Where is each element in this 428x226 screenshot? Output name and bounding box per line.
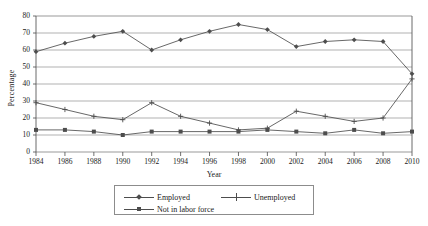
data-series <box>33 22 414 137</box>
x-axis-ticks <box>36 152 412 156</box>
data-point-plus-marker <box>352 119 357 124</box>
data-point-diamond-marker <box>294 44 299 49</box>
unemployed-line-marker-icon <box>221 193 251 202</box>
legend-label-unemployed: Unemployed <box>254 193 295 202</box>
data-point-plus-marker <box>207 121 212 126</box>
series-line <box>36 79 412 130</box>
data-point-diamond-marker <box>265 27 270 32</box>
chart-legend: Employed Unemployed Not in labor force <box>114 185 314 215</box>
data-point-square-marker <box>410 130 414 134</box>
data-point-diamond-marker <box>63 41 68 46</box>
data-point-square-marker <box>34 128 38 132</box>
x-axis-title: Year <box>0 170 428 179</box>
data-point-square-marker <box>294 130 298 134</box>
data-point-square-marker <box>150 130 154 134</box>
data-point-square-marker <box>179 130 183 134</box>
data-point-plus-marker <box>294 109 299 114</box>
data-point-square-marker <box>92 130 96 134</box>
data-point-diamond-marker <box>178 37 183 42</box>
series-line <box>36 25 412 74</box>
data-point-plus-marker <box>62 107 67 112</box>
data-point-square-marker <box>352 128 356 132</box>
data-point-square-marker <box>121 133 125 137</box>
data-point-square-marker <box>265 128 269 132</box>
data-point-diamond-marker <box>236 22 241 27</box>
data-point-square-marker <box>63 128 67 132</box>
employed-line-marker-icon <box>124 193 154 202</box>
legend-item-unemployed: Unemployed <box>221 192 295 203</box>
legend-label-employed: Employed <box>157 193 190 202</box>
series-employed <box>34 22 415 76</box>
not-in-labor-force-line-marker-icon <box>124 205 154 214</box>
series-unemployed <box>33 76 414 132</box>
data-point-square-marker <box>381 131 385 135</box>
data-point-diamond-marker <box>352 37 357 42</box>
legend-item-employed: Employed <box>124 192 190 203</box>
data-point-square-marker <box>208 130 212 134</box>
legend-label-not-in-labor-force: Not in labor force <box>157 205 214 214</box>
series-not-in-labor-force <box>34 128 414 137</box>
data-point-diamond-marker <box>149 48 154 53</box>
line-chart: Percentage 01020304050607080 19841986198… <box>0 0 428 226</box>
legend-item-not-in-labor-force: Not in labor force <box>124 204 214 215</box>
data-point-diamond-marker <box>323 39 328 44</box>
data-point-diamond-marker <box>91 34 96 39</box>
data-point-square-marker <box>323 131 327 135</box>
data-point-square-marker <box>236 130 240 134</box>
